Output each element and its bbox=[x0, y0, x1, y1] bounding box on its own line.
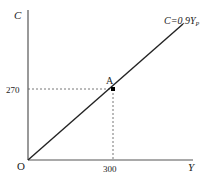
origin-label: O bbox=[17, 160, 25, 172]
line-equation-label: C=0.9YP bbox=[164, 15, 199, 27]
y-tick-270: 270 bbox=[6, 85, 20, 95]
y-axis-label: C bbox=[14, 9, 22, 21]
point-a-label: A bbox=[106, 75, 114, 86]
consumption-function-chart: C Y O 270 300 A C=0.9YP bbox=[0, 0, 205, 180]
chart-svg: C Y O 270 300 A C=0.9YP bbox=[0, 0, 205, 180]
x-axis-label: Y bbox=[188, 161, 196, 173]
x-tick-300: 300 bbox=[103, 164, 117, 174]
equation-main: C=0.9Y bbox=[164, 15, 197, 26]
point-a-marker bbox=[111, 87, 115, 91]
equation-subscript: P bbox=[194, 21, 199, 27]
consumption-line bbox=[28, 24, 183, 160]
